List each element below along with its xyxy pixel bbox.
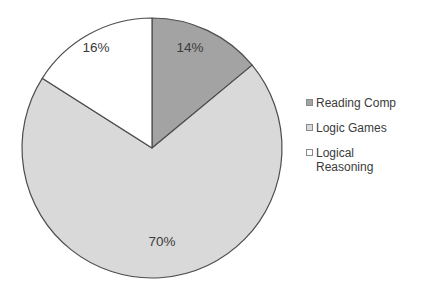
legend-item-logical-reasoning[interactable]: Logical Reasoning [306, 146, 435, 174]
pie-slice-value-label: 14% [176, 40, 203, 55]
legend-swatch-icon-reading-comp [306, 99, 313, 106]
pie-chart: 14%70%16% Reading Comp Logic Games Logic… [0, 0, 435, 297]
legend-label-logical-reasoning: Logical Reasoning [316, 146, 373, 174]
legend-label-logic-games: Logic Games [316, 121, 387, 135]
legend-label-reading-comp: Reading Comp [316, 96, 396, 110]
pie-slice-value-label: 16% [82, 40, 109, 55]
chart-legend: Reading Comp Logic Games Logical Reasoni… [306, 96, 435, 185]
legend-swatch-icon-logic-games [306, 124, 313, 131]
legend-swatch-icon-logical-reasoning [306, 149, 313, 156]
legend-item-reading-comp[interactable]: Reading Comp [306, 96, 435, 110]
legend-item-logic-games[interactable]: Logic Games [306, 121, 435, 135]
pie-slice-value-label: 70% [148, 234, 175, 249]
